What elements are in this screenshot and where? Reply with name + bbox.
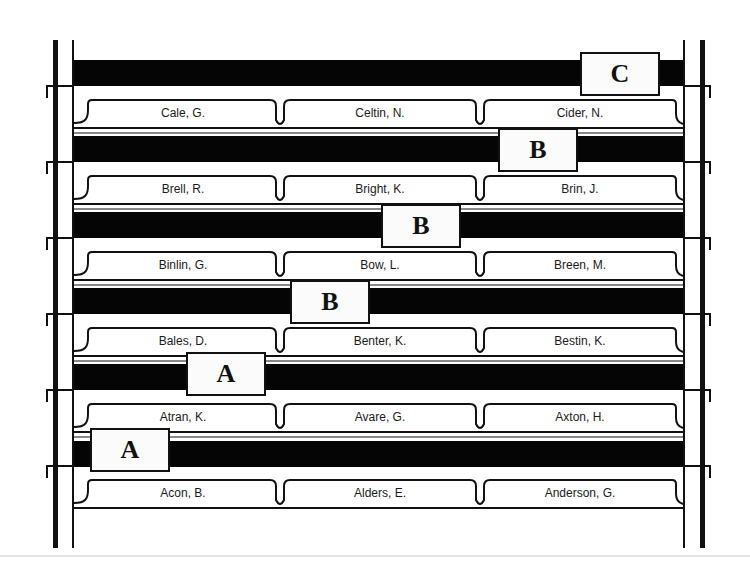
folder-label: Brell, R. [103, 182, 263, 196]
folder-label: Breen, M. [500, 258, 660, 272]
guide-card-b: B [381, 204, 461, 248]
folder-label: Bow, L. [300, 258, 460, 272]
folder-label: Avare, G. [300, 410, 460, 424]
folder-label: Axton, H. [500, 410, 660, 424]
guide-card-a: A [186, 352, 266, 396]
guide-card-b: B [498, 128, 578, 172]
folder-label: Binlin, G. [103, 258, 263, 272]
folder-label: Anderson, G. [500, 486, 660, 500]
page-divider [0, 555, 750, 557]
folder-label: Brin, J. [500, 182, 660, 196]
folder-label: Acon, B. [103, 486, 263, 500]
folder-label: Celtin, N. [300, 106, 460, 120]
folder-label: Bestin, K. [500, 334, 660, 348]
folder-label: Bright, K. [300, 182, 460, 196]
folder-label: Alders, E. [300, 486, 460, 500]
guide-card-a: A [90, 428, 170, 472]
folder-label: Cider, N. [500, 106, 660, 120]
folder-label: Benter, K. [300, 334, 460, 348]
guide-card-b: B [290, 280, 370, 324]
folder-label: Cale, G. [103, 106, 263, 120]
guide-card-c: C [580, 52, 660, 96]
folder-label: Bales, D. [103, 334, 263, 348]
folder-label: Atran, K. [103, 410, 263, 424]
